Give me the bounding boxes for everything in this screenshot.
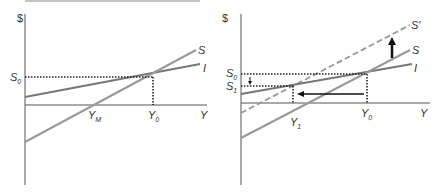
left-panel: $ Y S I S0 YM Y0	[10, 12, 208, 185]
level-label-s0: S0	[226, 67, 237, 81]
y-axis-label: $	[222, 12, 228, 24]
level-label-s0: S0	[10, 71, 21, 85]
curve-label-i: I	[203, 62, 206, 74]
investment-line	[25, 64, 200, 97]
saving-line	[25, 50, 196, 142]
x-axis-label: Y	[420, 107, 428, 119]
curve-label-i: I	[414, 62, 417, 74]
tick-label-y1: Y1	[290, 116, 301, 130]
tick-label-y0: Y0	[148, 109, 159, 123]
curve-label-s: S	[412, 44, 420, 56]
right-panel: $ Y S' S I S0 S1 Y1 Y0	[222, 12, 430, 185]
tick-label-y0: Y0	[361, 107, 372, 121]
curve-label-s: S	[198, 44, 206, 56]
y-axis-label: $	[17, 12, 23, 24]
paradox-of-thrift-diagram: $ Y S I S0 YM Y0 $ Y S' S I	[0, 0, 437, 194]
level-label-s1: S1	[226, 80, 237, 94]
arrow-head-left-icon	[297, 91, 304, 97]
arrow-head-up-icon	[388, 37, 396, 45]
investment-line	[241, 64, 412, 94]
tick-label-ym: YM	[88, 109, 101, 123]
arrow-head-down-icon	[248, 81, 252, 85]
curve-label-s-prime: S'	[411, 19, 421, 31]
x-axis-label: Y	[200, 109, 208, 121]
